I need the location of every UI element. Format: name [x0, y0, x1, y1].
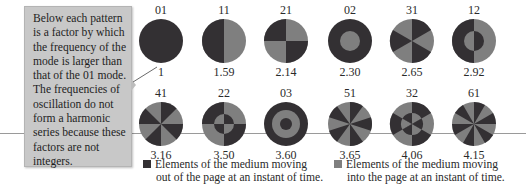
mode-12: 12 2.92	[447, 3, 501, 79]
mode-32: 32 4.06	[385, 86, 439, 162]
callout-note: Below each pattern is a factor by which …	[24, 6, 132, 167]
legend-into-page: Elements of the medium moving into the p…	[334, 158, 505, 184]
mode-31: 31 2.65	[385, 3, 439, 79]
legend-text-line2: out of the page at an instant of time.	[143, 171, 323, 184]
mode-factor: 2.14	[259, 65, 313, 79]
legend-text-line2: into the page at an instant of time.	[334, 171, 505, 184]
mode-label: 12	[447, 3, 501, 17]
mode-pattern-51	[327, 101, 373, 147]
mode-label: 41	[134, 86, 188, 100]
mode-factor: 2.92	[447, 65, 501, 79]
mode-pattern-01	[138, 18, 184, 64]
mode-01: 01 1	[134, 3, 188, 79]
mode-03: 03 3.60	[259, 86, 313, 162]
mode-22: 22 3.50	[197, 86, 251, 162]
mode-factor: 1	[134, 65, 188, 79]
legend-text-line1: Elements of the medium moving	[346, 158, 498, 171]
mode-label: 03	[259, 86, 313, 100]
mode-pattern-31	[389, 18, 435, 64]
mode-pattern-22	[201, 101, 247, 147]
callout-text: Below each pattern is a factor by which …	[33, 12, 126, 168]
mode-label: 61	[447, 86, 501, 100]
mode-pattern-41	[138, 101, 184, 147]
mode-51: 51 3.65	[323, 86, 377, 162]
legend-swatch-light	[334, 160, 342, 168]
mode-label: 51	[323, 86, 377, 100]
mode-pattern-03	[263, 101, 309, 147]
mode-02: 02 2.30	[323, 3, 377, 79]
mode-pattern-21	[263, 18, 309, 64]
mode-pattern-11	[201, 18, 247, 64]
mode-pattern-32	[389, 101, 435, 147]
legend-swatch-dark	[143, 160, 151, 168]
legend-text-line1: Elements of the medium moving	[155, 158, 307, 171]
mode-pattern-12	[451, 18, 497, 64]
mode-41: 41 3.16	[134, 86, 188, 162]
legend-out-of-page: Elements of the medium moving out of the…	[143, 158, 323, 184]
mode-label: 31	[385, 3, 439, 17]
mode-factor: 2.30	[323, 65, 377, 79]
mode-label: 02	[323, 3, 377, 17]
mode-61: 61 4.15	[447, 86, 501, 162]
mode-pattern-02	[327, 18, 373, 64]
mode-factor: 1.59	[197, 65, 251, 79]
mode-21: 21 2.14	[259, 3, 313, 79]
mode-label: 32	[385, 86, 439, 100]
mode-11: 11 1.59	[197, 3, 251, 79]
mode-label: 22	[197, 86, 251, 100]
mode-factor: 2.65	[385, 65, 439, 79]
mode-pattern-61	[451, 101, 497, 147]
mode-label: 01	[134, 3, 188, 17]
mode-label: 11	[197, 3, 251, 17]
mode-label: 21	[259, 3, 313, 17]
